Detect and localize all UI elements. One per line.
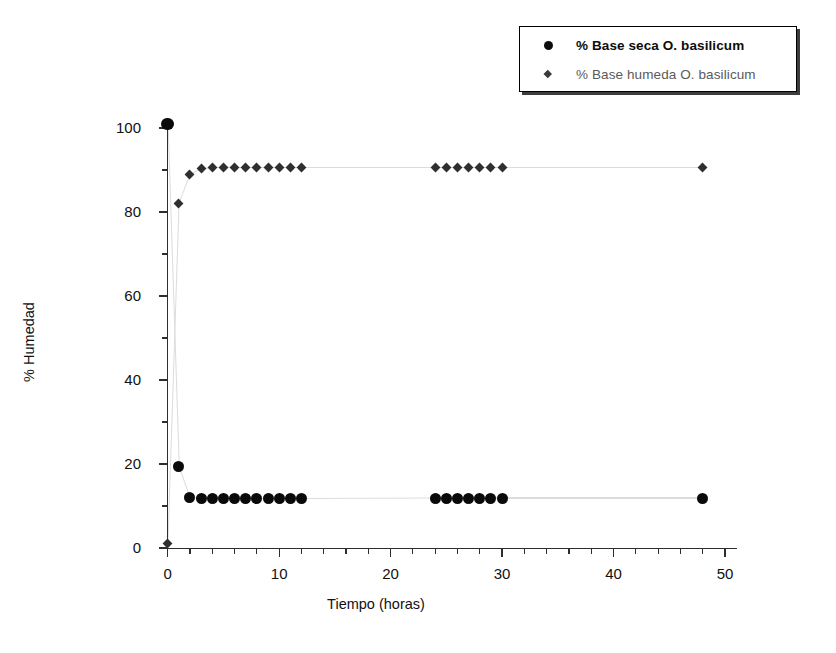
legend-label-base-humeda: % Base humeda O. basilicum bbox=[576, 67, 756, 82]
chart-figure: 020406080100 01020304050 % Humedad Tiemp… bbox=[0, 0, 836, 653]
data-point bbox=[252, 163, 262, 173]
data-point bbox=[296, 163, 306, 173]
series-base-humeda bbox=[0, 0, 836, 653]
legend-entry-base-humeda: % Base humeda O. basilicum bbox=[520, 60, 796, 88]
data-point bbox=[185, 169, 195, 179]
data-point bbox=[207, 163, 217, 173]
data-point bbox=[285, 163, 295, 173]
chart-legend: % Base seca O. basilicum % Base humeda O… bbox=[519, 26, 797, 92]
data-point bbox=[430, 163, 440, 173]
circle-marker-icon bbox=[520, 41, 576, 50]
legend-label-base-seca: % Base seca O. basilicum bbox=[576, 38, 744, 53]
data-point bbox=[218, 163, 228, 173]
data-point bbox=[441, 163, 451, 173]
data-point bbox=[274, 163, 284, 173]
data-point bbox=[163, 539, 173, 549]
data-point bbox=[174, 199, 184, 209]
data-point bbox=[196, 164, 206, 174]
data-point bbox=[453, 163, 463, 173]
data-point bbox=[263, 163, 273, 173]
plot-area: 020406080100 01020304050 % Humedad Tiemp… bbox=[0, 0, 836, 653]
diamond-marker-icon bbox=[520, 71, 576, 77]
y-axis-title: % Humedad bbox=[21, 272, 37, 412]
data-point bbox=[230, 163, 240, 173]
x-axis-title-text: Tiempo (horas) bbox=[327, 596, 425, 612]
x-axis-title: Tiempo (horas) bbox=[0, 596, 836, 612]
legend-entry-base-seca: % Base seca O. basilicum bbox=[520, 31, 796, 59]
data-point bbox=[698, 163, 708, 173]
data-point bbox=[475, 163, 485, 173]
data-point bbox=[497, 163, 507, 173]
data-point bbox=[241, 163, 251, 173]
data-point bbox=[464, 163, 474, 173]
data-point bbox=[486, 163, 496, 173]
